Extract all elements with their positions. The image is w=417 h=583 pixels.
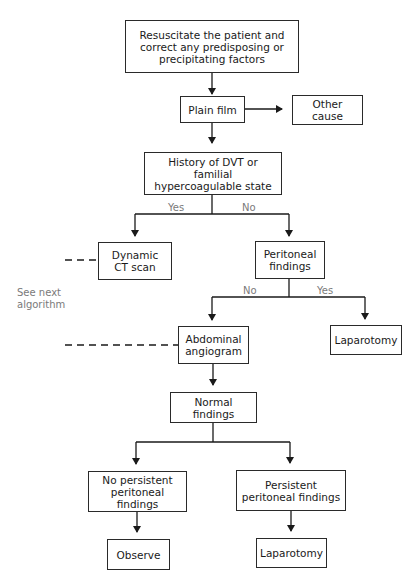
node-laparotomy-right: Laparotomy <box>330 325 402 355</box>
node-observe: Observe <box>107 539 170 570</box>
node-peritoneal-findings: Peritoneal findings <box>255 241 325 279</box>
edge-label-history-no: No <box>242 202 256 214</box>
node-other-cause: Other cause <box>292 95 363 125</box>
node-laparotomy-bottom: Laparotomy <box>256 538 327 568</box>
edge-label-peritoneal-no: No <box>243 285 257 297</box>
node-plain-film: Plain film <box>180 96 245 123</box>
side-note-see-next-algorithm: See next algorithm <box>17 287 65 311</box>
node-normal-findings: Normal findings <box>170 392 257 423</box>
node-persistent: Persistent peritoneal findings <box>236 470 346 511</box>
edge-label-history-yes: Yes <box>168 202 184 214</box>
node-no-persistent: No persistent peritoneal findings <box>88 471 187 512</box>
node-abdominal-angiogram: Abdominal angiogram <box>178 326 249 364</box>
edge-label-peritoneal-yes: Yes <box>317 285 333 297</box>
node-resuscitate: Resuscitate the patient and correct any … <box>125 20 299 73</box>
node-dynamic-ct: Dynamic CT scan <box>98 242 172 280</box>
node-history: History of DVT or familial hypercoagulab… <box>144 152 282 195</box>
